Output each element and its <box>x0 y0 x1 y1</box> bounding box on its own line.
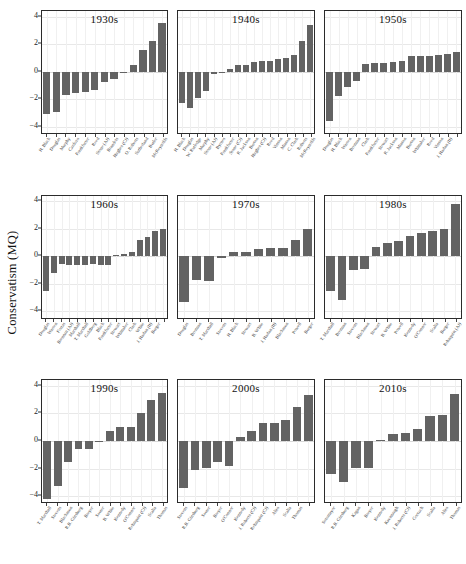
bar-slot <box>274 11 282 133</box>
bar <box>139 50 146 71</box>
bar <box>225 441 234 466</box>
bar <box>303 229 312 257</box>
y-tick-label: −4 <box>29 122 38 130</box>
bar <box>394 241 403 256</box>
bar-slot <box>325 196 336 318</box>
bar-slot <box>71 11 81 133</box>
bar <box>388 434 397 441</box>
bar-slot <box>398 11 407 133</box>
bar-slot <box>157 11 167 133</box>
bar <box>247 431 256 441</box>
bar <box>291 55 297 72</box>
bar <box>137 413 145 441</box>
bar-slot <box>105 380 115 502</box>
bar <box>53 72 60 112</box>
x-tick-label: Gorsuch <box>412 506 425 521</box>
bar <box>438 415 447 441</box>
bar-slot <box>105 196 113 318</box>
bar-series <box>325 380 461 502</box>
bar-slot <box>63 380 73 502</box>
bar <box>229 252 238 256</box>
bar-slot <box>235 380 246 502</box>
plot-area: 1960s <box>41 195 168 319</box>
bar-slot <box>90 11 100 133</box>
bar <box>95 441 103 442</box>
bar-slot <box>425 11 434 133</box>
bar <box>254 249 263 257</box>
bar <box>349 256 358 270</box>
bar-slot <box>359 196 370 318</box>
bar-slot <box>146 380 156 502</box>
x-tick-label: Breyer <box>84 506 95 519</box>
bar-slot <box>374 380 386 502</box>
bar-slot <box>280 380 291 502</box>
bar-series <box>42 380 167 502</box>
bar-slot <box>370 196 381 318</box>
bar-slot <box>84 380 94 502</box>
bar-slot <box>136 380 146 502</box>
y-axis: 420−2−4 <box>24 379 41 503</box>
bar <box>106 431 114 441</box>
bar-slot <box>416 11 425 133</box>
bar <box>451 204 460 256</box>
bar-slot <box>148 11 158 133</box>
bar <box>344 72 351 88</box>
bar <box>145 237 151 256</box>
bar <box>251 62 257 71</box>
bar <box>82 72 89 92</box>
x-axis-labels: SotomayorR.B. GinsburgKaganBreyerKennedy… <box>324 506 462 550</box>
bar <box>406 236 415 257</box>
bar-slot <box>89 196 97 318</box>
bar <box>353 72 360 82</box>
bar-slot <box>412 380 424 502</box>
bar-slot <box>452 11 461 133</box>
bar-slot <box>50 196 58 318</box>
bar <box>399 61 406 72</box>
bar <box>275 59 281 72</box>
bar-slot <box>240 196 252 318</box>
bar <box>191 441 200 470</box>
plot-area-wrapper: 1990sT. MarshallStevensBlackmunR.B. Gins… <box>41 375 168 558</box>
bar-slot <box>387 380 399 502</box>
plot-area-wrapper: 1930sH. BlackDouglasMurphyCardozoFrankfu… <box>41 6 168 189</box>
panel-1950s: 1950sDouglasH. BlackWarrenBrennanClarkFr… <box>318 6 462 189</box>
bar <box>326 256 335 291</box>
bar <box>204 256 213 281</box>
bar <box>241 252 250 256</box>
bar-slot <box>269 380 280 502</box>
bar <box>281 420 290 441</box>
bar-slot <box>334 11 343 133</box>
bar <box>43 256 49 291</box>
x-tick-label: Thomas <box>450 506 462 521</box>
bar-slot <box>424 380 436 502</box>
bar <box>211 72 217 74</box>
bar-slot <box>178 11 186 133</box>
bar <box>236 437 245 441</box>
bar-slot <box>250 11 258 133</box>
bar <box>59 256 65 264</box>
bar <box>270 423 279 441</box>
bar-slot <box>336 196 347 318</box>
bar <box>64 441 72 462</box>
bar <box>326 441 335 474</box>
bar <box>371 63 378 72</box>
bar-slot <box>125 380 135 502</box>
bar-series <box>42 196 167 318</box>
bar-slot <box>382 196 393 318</box>
bar <box>390 62 397 71</box>
bar-series <box>178 380 314 502</box>
bar-slot <box>215 196 227 318</box>
bar-slot <box>361 11 370 133</box>
bar-slot <box>450 196 461 318</box>
y-tick-label: −2 <box>29 279 38 287</box>
plot-area: 1990s <box>41 379 168 503</box>
bar <box>283 58 289 72</box>
bar <box>62 72 69 95</box>
bar-slot <box>61 11 71 133</box>
bar-slot <box>325 11 334 133</box>
bar-series <box>325 196 461 318</box>
chart-root: Conservatism (MQ) 420−2−41930sH. BlackDo… <box>0 0 466 564</box>
bar <box>202 441 211 469</box>
bar-series <box>325 11 461 133</box>
bar <box>179 441 188 488</box>
